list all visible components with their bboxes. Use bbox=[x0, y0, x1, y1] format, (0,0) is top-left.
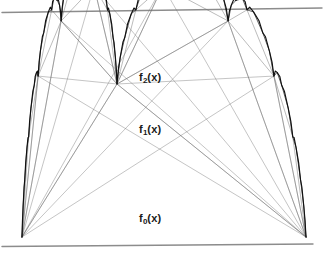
fan-ray-from-right-base bbox=[163, 0, 306, 237]
label-f2-sub: 2 bbox=[143, 76, 147, 85]
iterated-function-diagram bbox=[0, 0, 327, 256]
apex-ray bbox=[117, 21, 228, 84]
fan-ray-from-left-base bbox=[22, 21, 61, 237]
label-f0-sub: 0 bbox=[143, 217, 147, 226]
construction-chord-l3 bbox=[136, 0, 163, 10]
fan-ray-from-right-base bbox=[94, 0, 306, 237]
fan-ray-from-right-base bbox=[228, 21, 306, 237]
label-f0-arg: (x) bbox=[147, 212, 161, 224]
construction-chord-l3 bbox=[228, 10, 247, 21]
construction-chord-l3 bbox=[274, 76, 293, 137]
label-f0: f0(x) bbox=[139, 213, 161, 224]
label-f2-arg: (x) bbox=[147, 71, 161, 83]
fan-ray-from-left-base bbox=[22, 84, 117, 237]
label-f1-arg: (x) bbox=[147, 123, 161, 135]
label-f1: f1(x) bbox=[139, 124, 161, 135]
construction-chord-l2 bbox=[228, 21, 274, 76]
bottom-rule bbox=[2, 244, 313, 247]
construction-chord-l3 bbox=[108, 10, 117, 84]
construction-chord-l3 bbox=[94, 0, 108, 10]
construction-chord-l2 bbox=[38, 21, 61, 76]
label-f2: f2(x) bbox=[139, 72, 161, 83]
horizontal-rules bbox=[2, 8, 322, 247]
fan-ray-from-left-base bbox=[22, 0, 94, 237]
construction-chord-l3 bbox=[29, 76, 38, 137]
fan-ray-from-right-base bbox=[61, 21, 306, 237]
construction-chord-l3 bbox=[38, 10, 52, 76]
construction-chord-l3 bbox=[247, 10, 274, 76]
label-f1-sub: 1 bbox=[143, 128, 147, 137]
fan-ray-from-right-base bbox=[38, 76, 306, 237]
apex-ray bbox=[61, 21, 117, 84]
figure-container: f2(x) f1(x) f0(x) bbox=[0, 0, 327, 256]
construction-chord-l3 bbox=[293, 137, 306, 237]
